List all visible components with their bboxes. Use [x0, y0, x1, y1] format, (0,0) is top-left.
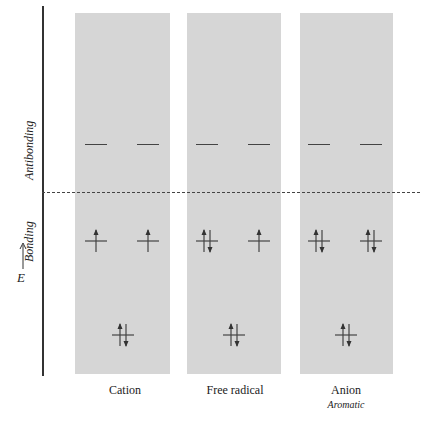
antibonding-level-empty	[196, 144, 218, 145]
energy-axis-line	[42, 6, 44, 376]
antibonding-level-empty	[360, 144, 382, 145]
caption-anion: Anion	[316, 383, 376, 398]
orbital-single-up-icon	[133, 226, 163, 256]
energy-label: E	[17, 270, 25, 286]
orbital-paired-icon	[108, 320, 138, 350]
orbital-paired-icon	[356, 226, 386, 256]
orbital-single-up-icon	[81, 226, 111, 256]
bonding-antibonding-divider	[42, 192, 420, 193]
orbital-single-up-icon	[244, 226, 274, 256]
antibonding-level-empty	[85, 144, 107, 145]
antibonding-label: Antibonding	[22, 121, 37, 180]
energy-arrow-icon	[18, 242, 28, 270]
antibonding-level-empty	[248, 144, 270, 145]
caption-cation: Cation	[95, 383, 155, 398]
orbital-paired-icon	[219, 320, 249, 350]
orbital-paired-icon	[331, 320, 361, 350]
orbital-paired-icon	[192, 226, 222, 256]
caption-aromatic: Aromatic	[316, 399, 376, 410]
caption-free-radical: Free radical	[190, 383, 280, 398]
antibonding-level-empty	[308, 144, 330, 145]
antibonding-level-empty	[137, 144, 159, 145]
orbital-paired-icon	[304, 226, 334, 256]
